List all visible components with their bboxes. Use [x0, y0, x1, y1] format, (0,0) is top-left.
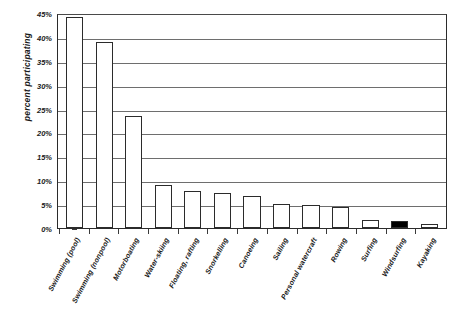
- x-label-slot: Floating, rafting: [178, 236, 208, 322]
- bar-slot: [90, 15, 120, 228]
- x-axis-category-label: Snorkelling: [203, 236, 230, 276]
- x-tick-slot: [356, 229, 386, 235]
- bar[interactable]: [96, 42, 113, 228]
- x-axis-tick-mark: [326, 229, 327, 234]
- y-axis-tick-label: 10%: [20, 177, 52, 186]
- bar-slot: [208, 15, 238, 228]
- bar-slot: [178, 15, 208, 228]
- x-axis-tick-mark: [118, 229, 119, 234]
- x-tick-slot: [267, 229, 297, 235]
- y-axis-tick-label: 15%: [20, 153, 52, 162]
- y-axis-tick-label: 30%: [20, 81, 52, 90]
- x-tick-slot: [178, 229, 208, 235]
- x-tick-slot: [415, 229, 445, 235]
- x-axis-category-label: Rowing: [329, 236, 349, 264]
- x-tick-slot: [89, 229, 119, 235]
- x-axis-tick-mark: [415, 229, 416, 234]
- y-axis-tick-label: 25%: [20, 105, 52, 114]
- x-tick-slot: [386, 229, 416, 235]
- bar-slot: [414, 15, 444, 228]
- bar-chart: percent participating 45%40%35%30%25%20%…: [0, 0, 470, 324]
- x-axis-category-label: Canoeing: [236, 236, 260, 270]
- plot-area: [57, 14, 447, 229]
- bar[interactable]: [302, 205, 319, 228]
- x-label-slot: Snorkelling: [207, 236, 237, 322]
- x-label-slot: Kayaking: [415, 236, 445, 322]
- bar[interactable]: [214, 193, 231, 228]
- x-tick-slot: [237, 229, 267, 235]
- bar[interactable]: [184, 191, 201, 228]
- x-tick-slot: [207, 229, 237, 235]
- x-label-slot: Personal watercraft: [297, 236, 327, 322]
- x-axis-tick-mark: [386, 229, 387, 234]
- bar-slot: [149, 15, 179, 228]
- x-axis-tick-mark: [237, 229, 238, 234]
- bar-slot: [296, 15, 326, 228]
- x-tick-slot: [118, 229, 148, 235]
- x-axis-category-label: Surfing: [359, 236, 379, 263]
- x-axis-tick-mark: [356, 229, 357, 234]
- bar-slot: [60, 15, 90, 228]
- x-axis-category-label: Sailing: [270, 236, 289, 262]
- x-label-slot: Canoeing: [237, 236, 267, 322]
- bar[interactable]: [362, 220, 379, 228]
- bar-slot: [119, 15, 149, 228]
- bar-slot: [267, 15, 297, 228]
- x-label-slot: Windsurfing: [386, 236, 416, 322]
- x-label-slot: Rowing: [326, 236, 356, 322]
- x-label-slot: Surfing: [356, 236, 386, 322]
- x-axis-category-label: Swimming (pool): [46, 236, 82, 293]
- bar[interactable]: [125, 116, 142, 228]
- y-axis-tick-labels: 45%40%35%30%25%20%15%10%5%0%: [20, 14, 52, 229]
- x-axis-category-labels: Swimming (pool)Swimming (nonpool)Motorbo…: [57, 236, 447, 322]
- x-tick-slot: [59, 229, 89, 235]
- y-axis-tick-label: 5%: [20, 201, 52, 210]
- x-axis-tick-mark: [267, 229, 268, 234]
- x-axis-tick-mark: [178, 229, 179, 234]
- x-axis-tick-mark: [59, 229, 60, 234]
- bar-slot: [326, 15, 356, 228]
- bar-slot: [355, 15, 385, 228]
- bar[interactable]: [273, 204, 290, 228]
- x-tick-slot: [326, 229, 356, 235]
- bar-slot: [385, 15, 415, 228]
- y-axis-tick-label: 45%: [20, 10, 52, 19]
- x-label-slot: Motorboating: [118, 236, 148, 322]
- bar[interactable]: [66, 17, 83, 228]
- bar[interactable]: [421, 224, 438, 228]
- bar[interactable]: [155, 185, 172, 228]
- x-axis-tick-mark: [89, 229, 90, 234]
- y-axis-tick-label: 20%: [20, 129, 52, 138]
- bar[interactable]: [391, 221, 408, 228]
- y-axis-tick-label: 40%: [20, 33, 52, 42]
- x-axis-tick-mark: [148, 229, 149, 234]
- bar[interactable]: [243, 196, 260, 228]
- x-axis-tick-mark: [297, 229, 298, 234]
- x-axis-tick-mark: [207, 229, 208, 234]
- y-axis-tick-label: 0%: [20, 225, 52, 234]
- x-tick-slot: [148, 229, 178, 235]
- x-axis-tick-marks: [57, 229, 447, 235]
- bar-series: [58, 15, 446, 228]
- x-axis-category-label: Kayaking: [415, 236, 438, 269]
- y-axis-tick-label: 35%: [20, 57, 52, 66]
- bar[interactable]: [332, 207, 349, 229]
- bar-slot: [237, 15, 267, 228]
- x-tick-slot: [297, 229, 327, 235]
